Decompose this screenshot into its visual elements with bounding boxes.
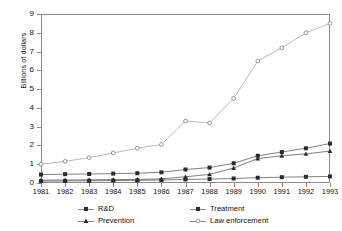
data-point (280, 46, 284, 50)
data-point (232, 161, 236, 165)
data-point (328, 21, 332, 25)
legend-label: R&D (98, 205, 114, 213)
data-point (135, 171, 139, 175)
data-point (39, 173, 43, 177)
y-tick-label: 5 (30, 85, 34, 93)
data-point (328, 142, 332, 146)
data-point (63, 160, 67, 164)
data-point (231, 166, 236, 170)
data-point (208, 177, 212, 181)
legend-item-law-enforcement[interactable]: Law enforcement (190, 217, 308, 225)
y-tick-label: 2 (30, 141, 34, 149)
x-tick-label: 1982 (57, 188, 73, 195)
x-tick-label: 1988 (201, 188, 217, 195)
y-tick-label: 9 (30, 10, 34, 18)
y-tick-label: 7 (30, 48, 34, 56)
x-tick-label: 1992 (298, 188, 314, 195)
data-point (328, 149, 333, 153)
square-marker-icon (78, 205, 94, 213)
legend-item-prevention[interactable]: Prevention (78, 217, 190, 225)
y-tick-label: 4 (30, 104, 34, 112)
data-point (184, 119, 188, 123)
data-point (87, 172, 91, 176)
data-point (111, 172, 115, 176)
data-point (304, 175, 308, 179)
data-point (304, 146, 308, 150)
x-tick-label: 1987 (177, 188, 193, 195)
y-tick-label: 6 (30, 66, 34, 74)
legend-label: Treatment (210, 205, 244, 213)
x-tick-label: 1990 (250, 188, 266, 195)
y-tick-label: 3 (30, 123, 34, 131)
plot-area: 0123456789 19811982198319841985198619871… (41, 14, 330, 183)
data-point (304, 31, 308, 35)
x-tick-label: 1985 (129, 188, 145, 195)
legend-item-treatment[interactable]: Treatment (190, 205, 308, 213)
x-tick-label: 1983 (81, 188, 97, 195)
x-tick-label: 1981 (33, 188, 49, 195)
chart-container: Billions of dollars 0123456789 198119821… (0, 0, 342, 231)
data-point (208, 121, 212, 125)
square-marker-icon (190, 205, 206, 213)
y-tick-label: 1 (30, 160, 34, 168)
series-line (41, 23, 330, 164)
data-point (63, 172, 67, 176)
triangle-marker-icon (78, 217, 94, 225)
x-tick-label: 1993 (322, 188, 338, 195)
data-point (160, 143, 164, 147)
x-tick-label: 1989 (225, 188, 241, 195)
data-point (232, 176, 236, 180)
x-tick-label: 1986 (153, 188, 169, 195)
x-tick-label: 1991 (274, 188, 290, 195)
data-point (256, 176, 260, 180)
data-point (280, 175, 284, 179)
data-point (328, 174, 332, 178)
x-tick-label: 1984 (105, 188, 121, 195)
legend-label: Law enforcement (210, 217, 268, 225)
legend-label: Prevention (98, 217, 134, 225)
data-point (159, 170, 163, 174)
data-point (232, 97, 236, 101)
data-point (256, 59, 260, 63)
data-point (87, 156, 91, 160)
data-point (39, 162, 43, 166)
data-point (111, 151, 115, 155)
y-tick-label: 8 (30, 29, 34, 37)
legend-item-r-d[interactable]: R&D (78, 205, 190, 213)
data-point (135, 146, 139, 150)
data-point (208, 166, 212, 170)
chart-legend: R&DTreatmentPreventionLaw enforcement (78, 203, 308, 227)
y-tick-label: 0 (30, 179, 34, 187)
y-axis-title: Billions of dollars (19, 6, 28, 116)
data-point (184, 167, 188, 171)
circle-marker-icon (190, 217, 206, 225)
series-lines (41, 14, 330, 183)
